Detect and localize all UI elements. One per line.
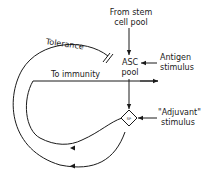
asc-label-line2: pool (121, 68, 138, 77)
asc-label-line1: ASC (122, 58, 139, 67)
to-immunity-label: To immunity (50, 70, 100, 79)
sp-label: SP (127, 117, 131, 121)
adjuvant-label-line1: "Adjuvant" (158, 108, 201, 117)
from-stem-label-line1: From stem (110, 8, 153, 17)
antigen-label-line2: stimulus (160, 63, 194, 72)
adjuvant-label-line2: stimulus (161, 118, 195, 127)
inner-loop-arrowhead (70, 146, 75, 151)
immunity-inner-loop (26, 81, 158, 144)
tolerance-label: Tolerance (44, 37, 84, 51)
from-stem-label-line2: cell pool (114, 18, 147, 27)
sp-node: SP (121, 110, 137, 126)
outer-loop-arrowhead (70, 164, 75, 169)
tolerance-outer-loop (13, 44, 125, 166)
immune-regulation-diagram: From stem cell pool ASC pool Antigen sti… (0, 0, 215, 177)
antigen-label-line1: Antigen (160, 53, 191, 62)
